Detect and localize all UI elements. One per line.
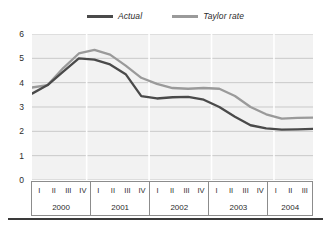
legend-swatch-taylor-rate bbox=[172, 15, 198, 18]
quarter-row-2001: IIIIIIIV bbox=[91, 182, 149, 199]
year-label-2003: 2003 bbox=[209, 199, 267, 215]
year-label-2001: 2001 bbox=[91, 199, 149, 215]
year-block-2004: IIIIII2004 bbox=[268, 182, 312, 215]
quarter-label-2001-IV: IV bbox=[135, 186, 150, 195]
legend-swatch-actual bbox=[87, 15, 113, 18]
year-block-2001: IIIIIIIV2001 bbox=[91, 182, 150, 215]
y-axis-labels: 6543210 bbox=[0, 34, 30, 180]
quarter-label-2003-I: I bbox=[209, 186, 224, 195]
quarter-label-2001-I: I bbox=[91, 186, 106, 195]
quarter-label-2003-III: III bbox=[238, 186, 253, 195]
quarter-row-2004: IIIIII bbox=[268, 182, 312, 199]
quarter-label-2004-I: I bbox=[268, 186, 283, 195]
legend-item-taylor-rate: Taylor rate bbox=[172, 11, 244, 21]
legend-item-actual: Actual bbox=[87, 11, 142, 21]
quarter-label-2001-III: III bbox=[120, 186, 135, 195]
y-tick-2: 2 bbox=[19, 127, 24, 135]
quarter-row-2000: IIIIIIIV bbox=[32, 182, 90, 199]
y-tick-3: 3 bbox=[19, 103, 24, 111]
year-label-2004: 2004 bbox=[268, 199, 312, 215]
bottom-rule bbox=[8, 218, 323, 220]
legend-label-actual: Actual bbox=[118, 11, 142, 21]
plot-svg bbox=[32, 34, 313, 180]
quarter-label-2000-III: III bbox=[61, 186, 76, 195]
year-block-2003: IIIIIIIV2003 bbox=[209, 182, 268, 215]
series-lines bbox=[32, 50, 313, 130]
quarter-label-2004-II: II bbox=[283, 186, 298, 195]
quarter-row-2003: IIIIIIIV bbox=[209, 182, 267, 199]
chart-legend: Actual Taylor rate bbox=[0, 8, 331, 24]
year-label-2000: 2000 bbox=[32, 199, 90, 215]
year-block-2002: IIIIIIIV2002 bbox=[150, 182, 209, 215]
quarter-label-2002-IV: IV bbox=[194, 186, 209, 195]
quarter-label-2002-II: II bbox=[165, 186, 180, 195]
y-tick-4: 4 bbox=[19, 79, 24, 87]
series-line-taylor-rate bbox=[32, 50, 313, 119]
quarter-label-2003-II: II bbox=[224, 186, 239, 195]
quarter-label-2001-II: II bbox=[106, 186, 121, 195]
y-tick-5: 5 bbox=[19, 54, 24, 62]
year-block-2000: IIIIIIIV2000 bbox=[32, 182, 91, 215]
quarter-label-2000-IV: IV bbox=[76, 186, 91, 195]
chart-container: Actual Taylor rate 6543210 IIIIIIIV2000I… bbox=[0, 0, 331, 230]
quarter-label-2002-I: I bbox=[150, 186, 165, 195]
quarter-label-2004-III: III bbox=[298, 186, 313, 195]
quarter-row-2002: IIIIIIIV bbox=[150, 182, 208, 199]
gridlines bbox=[32, 34, 313, 180]
y-tick-0: 0 bbox=[19, 176, 24, 184]
year-label-2002: 2002 bbox=[150, 199, 208, 215]
legend-label-taylor-rate: Taylor rate bbox=[203, 11, 244, 21]
quarter-label-2000-I: I bbox=[32, 186, 47, 195]
quarter-label-2003-IV: IV bbox=[253, 186, 268, 195]
y-tick-6: 6 bbox=[19, 30, 24, 38]
series-line-actual bbox=[32, 58, 313, 129]
plot-area bbox=[32, 34, 313, 180]
y-tick-1: 1 bbox=[19, 152, 24, 160]
quarter-label-2000-II: II bbox=[47, 186, 62, 195]
quarter-label-2002-III: III bbox=[179, 186, 194, 195]
x-axis-table: IIIIIIIV2000IIIIIIIV2001IIIIIIIV2002IIII… bbox=[31, 181, 313, 216]
